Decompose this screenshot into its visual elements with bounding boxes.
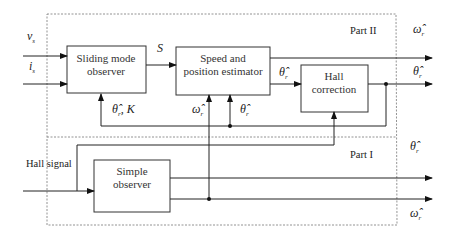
sliding-mode-observer-block: Sliding mode observer (67, 46, 146, 93)
is-label: is (29, 59, 35, 75)
block-label-line1: Hall (325, 70, 344, 82)
part2-omega-output-label: ω̂r (413, 22, 426, 38)
s-signal-label: S (157, 41, 163, 55)
theta-hat-label: θ̂r (279, 65, 290, 81)
block-label-line2: observer (113, 178, 151, 190)
simple-observer-block: Simple observer (94, 160, 170, 212)
part1-theta-output-label: θ̂r (410, 139, 421, 155)
junction-dot (228, 124, 232, 128)
block-diagram: Part II Part I Sliding mode observer Spe… (0, 0, 458, 240)
hall-signal-label: Hall signal (26, 158, 72, 169)
part1-label: Part I (350, 149, 374, 160)
part2-theta-output-label: θ̂r (413, 64, 424, 80)
part1-omega-output-label: ω̂r (410, 206, 423, 222)
block-label-line2: observer (87, 65, 125, 77)
block-label-line1: Sliding mode (77, 52, 136, 64)
hall-correction-block: Hall correction (301, 65, 368, 112)
part2-label: Part II (350, 25, 377, 36)
junction-dot (207, 197, 211, 201)
omega-feedback-label: ω̂r (192, 102, 205, 118)
block-label-line2: correction (312, 83, 357, 95)
feedback-theta-k-label: θ̂r, K (112, 102, 136, 118)
vs-label: vs (27, 29, 35, 45)
block-label-line2: position estimator (183, 65, 262, 77)
speed-position-estimator-block: Speed and position estimator (176, 47, 270, 95)
block-label-line1: Simple (116, 165, 147, 177)
theta-feedback-label: θ̂r (240, 102, 251, 118)
block-label-line1: Speed and (200, 52, 246, 64)
